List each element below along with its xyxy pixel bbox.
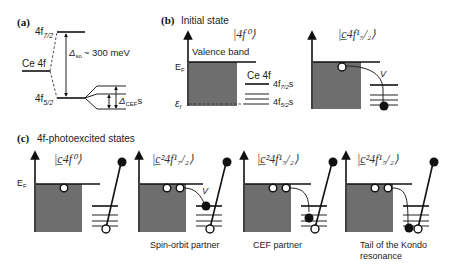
hole-icon (206, 225, 214, 233)
caption: CEF partner (253, 240, 302, 250)
valence-band (36, 184, 82, 232)
energy-level-diagram: (a) Ce 4f 4f7/2 4f5/2 Δso~ 300 meV ΔCEFs… (0, 0, 453, 268)
electron-icon (405, 224, 414, 233)
j72-label: 4f7/2 (35, 26, 53, 39)
panel-b-label: (b) (161, 14, 175, 27)
epsf-label: εf (175, 98, 182, 110)
initial-state-c4f1: |c̲4f¹₅/₂⟩ V (312, 27, 398, 111)
state-kondo-tail: |c̲²4f¹₅/₂⟩ Tail of the Kondo resonance (346, 152, 439, 261)
photoelectron-icon (329, 158, 338, 167)
initial-state-4f0: |4f⁰⟩ Valence band EF εf Ce 4f 4f7/2s 4f… (175, 27, 294, 110)
hole-icon (384, 184, 392, 192)
hole-icon (176, 184, 184, 192)
valence-band (313, 62, 361, 109)
hole-icon (371, 184, 379, 192)
j52s-label: 4f5/2s (273, 97, 294, 108)
excitation-line (210, 163, 226, 228)
caption-line2: resonance (360, 251, 402, 261)
ket-c4f1-52: |c̲4f¹₅/₂⟩ (338, 27, 376, 41)
excitation-line (315, 163, 332, 228)
caption: Tail of the Kondo (360, 240, 427, 250)
hole-icon (269, 184, 277, 192)
photoelectron-icon (118, 158, 127, 167)
ket: |c̲²4f¹₅/₂⟩ (357, 152, 399, 166)
electron-icon (202, 202, 211, 211)
electron-icon (305, 214, 314, 223)
hybridization-path (290, 188, 309, 212)
panel-c: (c) 4f-photoexcited states EF |c̲4f⁰⟩ |c… (17, 132, 439, 261)
j72s-label: 4f7/2s (273, 79, 294, 90)
photoelectron-icon (223, 158, 232, 167)
panel-a-label: (a) (17, 16, 30, 29)
hole-icon (60, 184, 68, 192)
delta-cef-label: ΔCEFs (118, 95, 142, 107)
connector-j52 (50, 71, 57, 98)
hole-icon (282, 184, 290, 192)
ket: |c̲²4f¹₅/₂⟩ (257, 152, 299, 166)
state-cef-partner: |c̲²4f¹₅/₂⟩ CEF partner (244, 152, 338, 250)
hybridization-v-label: V (202, 186, 209, 196)
ce4f-label: Ce 4f (22, 58, 46, 69)
electron-icon (380, 102, 389, 111)
ce4f-label-b: Ce 4f (247, 70, 271, 81)
caption: Spin-orbit partner (150, 240, 220, 250)
panel-b-title: Initial state (181, 15, 229, 26)
photoelectron-icon (430, 158, 439, 167)
ket: |c̲²4f¹₇/₂⟩ (152, 152, 194, 166)
j52-label: 4f5/2 (35, 93, 53, 106)
ef-label: EF (175, 62, 185, 73)
hole-icon (414, 225, 422, 233)
panel-b: (b) Initial state |4f⁰⟩ Valence band EF … (161, 14, 398, 111)
delta-so-label: Δso~ 300 meV (68, 47, 131, 59)
panel-c-title: 4f-photoexcited states (37, 133, 135, 144)
panel-c-label: (c) (17, 132, 30, 145)
ket: |c̲4f⁰⟩ (54, 152, 82, 166)
ket-4f0: |4f⁰⟩ (233, 27, 256, 41)
ef-label-c: EF (17, 178, 27, 189)
hole-icon (311, 225, 319, 233)
panel-a: (a) Ce 4f 4f7/2 4f5/2 Δso~ 300 meV ΔCEFs (17, 16, 142, 109)
hole-icon (163, 184, 171, 192)
valence-band (189, 62, 237, 106)
hole-icon (338, 63, 346, 71)
hybridization-v-label: V (380, 69, 387, 79)
state-spin-orbit-partner: |c̲²4f¹₇/₂⟩ V Spin-orbit partner (139, 152, 232, 250)
state-c4f0: |c̲4f⁰⟩ (35, 152, 127, 233)
hole-icon (102, 225, 110, 233)
excitation-line (106, 163, 121, 228)
excitation-line (418, 163, 433, 228)
valence-band-label: Valence band (192, 46, 249, 57)
